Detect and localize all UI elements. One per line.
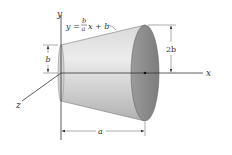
- frustum-diagram: y x z y = b a x + b b 2b a: [0, 0, 232, 155]
- dimension-a: a: [62, 122, 146, 136]
- equation-lhs: y =: [65, 22, 80, 31]
- dimension-2b-label: 2b: [166, 45, 176, 54]
- dimension-b-label: b: [46, 55, 51, 64]
- y-axis-label: y: [56, 9, 63, 19]
- center-point: [144, 72, 147, 75]
- equation-numerator: b: [82, 17, 86, 25]
- equation-rhs: x + b: [88, 22, 109, 31]
- z-axis: [22, 73, 61, 101]
- dimension-a-label: a: [98, 127, 103, 136]
- curve-equation: y = b a x + b: [65, 17, 116, 33]
- equation-denominator: a: [82, 25, 86, 33]
- z-axis-label: z: [15, 100, 21, 110]
- x-axis-label: x: [206, 68, 211, 78]
- dimension-b: b: [43, 45, 58, 73]
